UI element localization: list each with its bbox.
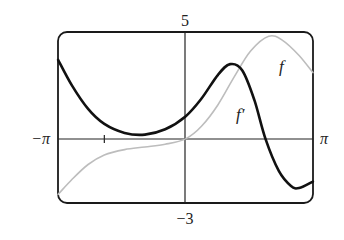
f-prime-curve-label: f′ xyxy=(236,105,245,124)
f-curve-label: f xyxy=(279,57,286,76)
chart: 5 −3 −π π f f′ xyxy=(0,0,344,240)
x-max-label: π xyxy=(320,130,329,147)
x-min-label: −π xyxy=(31,130,51,147)
y-min-label: −3 xyxy=(176,210,193,227)
y-max-label: 5 xyxy=(181,12,189,29)
